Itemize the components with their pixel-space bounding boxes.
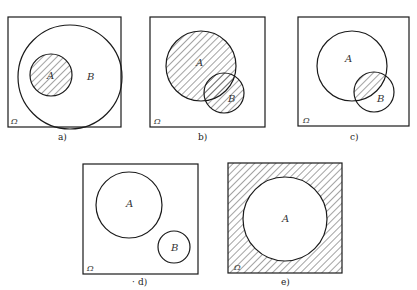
omega-label: Ω bbox=[233, 263, 241, 272]
set-b-label: B bbox=[170, 242, 178, 253]
omega-label: Ω bbox=[86, 264, 94, 273]
set-a-label: A bbox=[195, 57, 203, 68]
set-b-label: B bbox=[86, 71, 94, 82]
set-a-circle bbox=[317, 31, 387, 101]
caption-d: d) bbox=[138, 277, 147, 287]
panel-a: A B Ω a) bbox=[8, 17, 122, 142]
caption-c: c) bbox=[350, 132, 359, 142]
set-a-label: A bbox=[125, 198, 133, 209]
caption-d-prefix: · bbox=[132, 277, 135, 287]
set-a-label: A bbox=[281, 213, 289, 224]
caption-b: b) bbox=[198, 132, 207, 142]
caption-e: e) bbox=[281, 277, 290, 287]
set-b-label: B bbox=[227, 93, 235, 104]
venn-diagram-figure: A B Ω a) A B Ω b) A B Ω c) A B Ω · d) bbox=[0, 0, 417, 290]
omega-label: Ω bbox=[302, 116, 310, 125]
panel-d: A B Ω · d) bbox=[83, 164, 198, 287]
omega-label: Ω bbox=[10, 117, 18, 126]
set-a-label: A bbox=[344, 53, 352, 64]
panel-e: A Ω e) bbox=[228, 163, 342, 287]
panel-b: A B Ω b) bbox=[150, 17, 265, 142]
universe-box bbox=[83, 164, 198, 274]
omega-label: Ω bbox=[153, 117, 161, 126]
universe-box bbox=[298, 17, 409, 126]
set-b-label: B bbox=[376, 93, 384, 104]
panel-c: A B Ω c) bbox=[298, 17, 409, 142]
caption-a: a) bbox=[58, 132, 67, 142]
set-a-label: A bbox=[46, 70, 54, 81]
